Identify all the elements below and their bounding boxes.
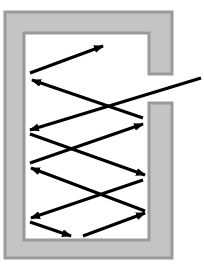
- ray-arrow-r7: [30, 222, 71, 236]
- ray-arrow-r6: [31, 180, 143, 218]
- ray-arrow-r3: [30, 124, 143, 163]
- ray-arrow-r4: [30, 134, 145, 175]
- light-rays: [30, 46, 201, 236]
- ray-arrow-incoming: [30, 78, 201, 130]
- ray-arrow-r5: [31, 168, 145, 211]
- ray-arrow-r8: [83, 213, 145, 236]
- ray-arrow-r1: [30, 46, 103, 73]
- cavity-diagram: [0, 0, 204, 265]
